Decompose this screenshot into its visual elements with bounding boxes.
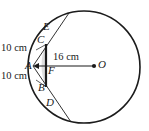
- point-label-f: F: [48, 65, 55, 76]
- figure-canvas: [0, 0, 149, 131]
- dimension-label-tangent-upper: 10 cm: [1, 43, 27, 54]
- point-label-c: C: [37, 34, 44, 45]
- point-label-e: E: [43, 21, 50, 32]
- point-label-b: B: [38, 82, 45, 93]
- point-label-d: D: [46, 97, 54, 108]
- dimension-label-center-distance: 16 cm: [53, 52, 79, 63]
- center-point-dot: [92, 64, 96, 68]
- point-label-o: O: [98, 59, 106, 70]
- leader-upper-tangent: [36, 45, 45, 50]
- dimension-label-tangent-lower: 10 cm: [1, 71, 27, 82]
- geometry-figure: E C A F B D O 10 cm 10 cm 16 cm: [0, 0, 149, 131]
